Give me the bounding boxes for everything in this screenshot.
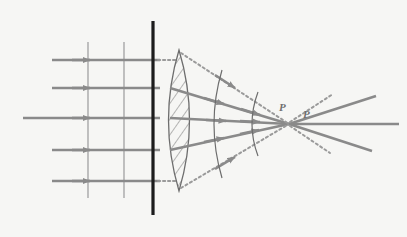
focus-label-far: P [303, 108, 310, 120]
optics-figure: P P [0, 0, 407, 237]
focus-label-near: P [279, 101, 286, 113]
refracted-ray-axis-arrow-2 [240, 121, 260, 122]
optics-diagram-canvas: P P [0, 0, 407, 237]
refracted-ray-axis-arrow-1 [206, 120, 226, 121]
